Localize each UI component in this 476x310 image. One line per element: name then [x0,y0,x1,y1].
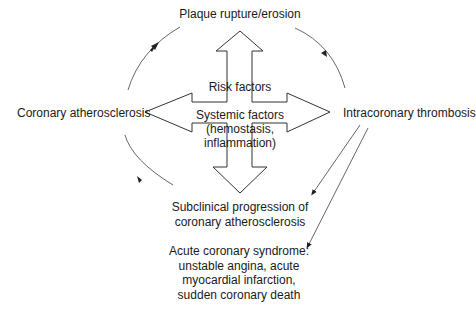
center-label-line: (hemostasis, [196,122,284,136]
node-plaque-rupture: Plaque rupture/erosion [179,7,300,22]
arrow-progression-to-atherosclerosis [125,135,173,185]
node-coronary-atherosclerosis: Coronary atherosclerosis [17,106,150,121]
arrow-atherosclerosis-to-rupture [128,27,180,90]
arrowhead-icon [137,176,142,183]
node-acute-coronary-syndrome: Acute coronary syndrome: unstable angina… [169,244,309,302]
arrow-thrombosis-to-progression [313,125,360,193]
node-intracoronary-thrombosis: Intracoronary thrombosis [343,106,476,121]
center-label-line: inflammation) [196,136,284,150]
node-label-line: coronary atherosclerosis [172,215,309,230]
node-label-line: unstable angina, acute [169,259,309,274]
node-label-line: sudden coronary death [169,288,309,303]
node-label-line: Acute coronary syndrome: [169,244,309,259]
center-label-line: Systemic factors [196,108,284,122]
arrow-rupture-to-thrombosis [295,28,345,88]
node-label-line: myocardial infarction, [169,273,309,288]
node-subclinical-progression: Subclinical progression of coronary athe… [172,200,309,229]
node-label-line: Subclinical progression of [172,200,309,215]
center-label: Risk factors [209,80,272,94]
arrowhead-icon [321,50,327,57]
systemic-factors-label: Systemic factors (hemostasis, inflammati… [196,108,284,150]
node-label: Coronary atherosclerosis [17,106,150,120]
risk-factors-label: Risk factors [209,80,272,95]
node-label: Intracoronary thrombosis [343,106,476,120]
node-label: Plaque rupture/erosion [179,7,300,21]
